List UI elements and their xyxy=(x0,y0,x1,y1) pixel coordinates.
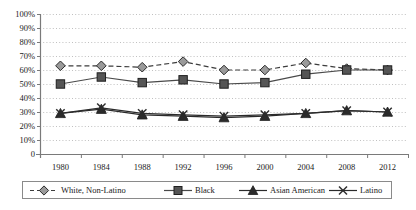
legend-label: White, Non-Latino xyxy=(61,186,126,195)
marker-square xyxy=(302,70,310,78)
marker-square xyxy=(261,78,269,86)
x-axis-tick-label: 1980 xyxy=(40,163,80,172)
y-axis-tick-label: 80% xyxy=(2,38,35,47)
legend-marker-triangle-icon xyxy=(238,182,268,198)
legend-item-4: Latino xyxy=(328,182,382,198)
x-axis-tick-label: 1984 xyxy=(81,163,121,172)
y-axis-tick-label: 30% xyxy=(2,108,35,117)
x-axis-tick-label: 1992 xyxy=(163,163,203,172)
x-axis-tick-label: 2000 xyxy=(245,163,285,172)
chart-legend: White, Non-LatinoBlackAsian AmericanLati… xyxy=(22,181,392,199)
marker-square xyxy=(56,80,64,88)
x-axis-tick-label: 2012 xyxy=(368,163,408,172)
y-axis-tick-label: 70% xyxy=(2,52,35,61)
legend-marker-x-icon xyxy=(328,182,358,198)
y-axis-tick-label: 60% xyxy=(2,66,35,75)
marker-square xyxy=(179,76,187,84)
marker-square xyxy=(138,78,146,86)
y-axis-tick-label: 90% xyxy=(2,24,35,33)
chart-plot-area xyxy=(0,0,416,210)
legend-entries: White, Non-LatinoBlackAsian AmericanLati… xyxy=(23,182,391,198)
marker-square xyxy=(174,187,182,195)
y-axis-tick-label: 100% xyxy=(2,10,35,19)
legend-label: Latino xyxy=(360,186,382,195)
x-axis-tick-label: 1996 xyxy=(204,163,244,172)
marker-square xyxy=(97,73,105,81)
chart-container: White, Non-LatinoBlackAsian AmericanLati… xyxy=(0,0,416,210)
y-axis-tick-label: 10% xyxy=(2,136,35,145)
legend-item-3: Asian American xyxy=(238,182,325,198)
y-axis-tick-label: 40% xyxy=(2,94,35,103)
marker-square xyxy=(342,66,350,74)
legend-item-1: White, Non-Latino xyxy=(29,182,126,198)
marker-diamond xyxy=(39,186,48,195)
y-axis-tick-label: 20% xyxy=(2,122,35,131)
x-axis-tick-label: 2004 xyxy=(286,163,326,172)
marker-square xyxy=(220,80,228,88)
legend-label: Black xyxy=(195,186,215,195)
legend-item-2: Black xyxy=(163,182,215,198)
y-axis-tick-label: 0 xyxy=(2,150,35,159)
legend-label: Asian American xyxy=(270,186,325,195)
legend-marker-diamond-icon xyxy=(29,182,59,198)
legend-marker-square-icon xyxy=(163,182,193,198)
x-axis-tick-label: 1988 xyxy=(122,163,162,172)
x-axis-tick-label: 2008 xyxy=(327,163,367,172)
y-axis-tick-label: 50% xyxy=(2,80,35,89)
marker-square xyxy=(383,66,391,74)
